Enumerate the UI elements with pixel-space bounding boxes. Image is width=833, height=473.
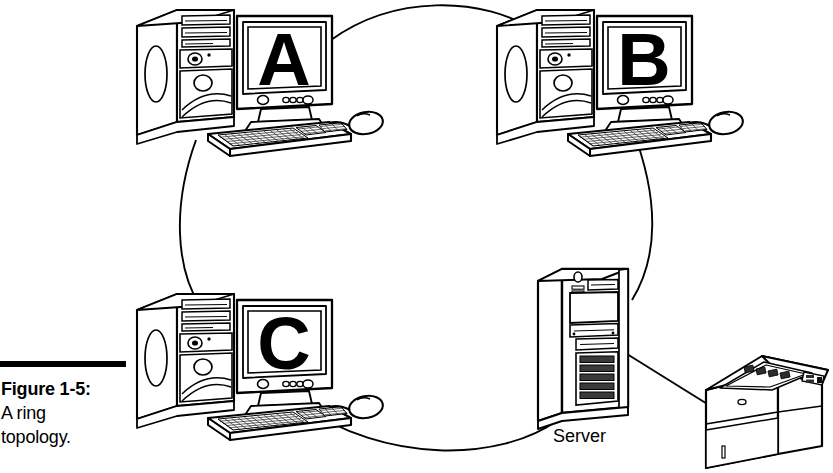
link-c-to-a — [180, 140, 200, 306]
computer-node-c: C — [137, 294, 385, 440]
figure-ring-topology: A B C Server Figure 1-5: A ring topology… — [0, 0, 833, 473]
caption-line-1: A ring — [1, 402, 161, 426]
screen-letter-c: C — [257, 302, 310, 385]
server-node — [538, 269, 628, 429]
computer-node-b: B — [497, 10, 745, 156]
laser-printer-icon — [706, 356, 828, 468]
server-label: Server — [553, 426, 606, 447]
link-b-to-server — [632, 128, 652, 300]
caption-line-2: topology. — [1, 426, 161, 450]
server-tower-icon — [538, 269, 628, 429]
printer-node — [706, 356, 828, 468]
caption-rule — [0, 361, 126, 367]
screen-letter-b: B — [617, 18, 670, 101]
caption-title: Figure 1-5: — [1, 378, 161, 402]
screen-letter-a: A — [257, 18, 310, 101]
figure-caption: Figure 1-5: A ring topology. — [1, 378, 161, 450]
computer-node-a: A — [137, 10, 385, 156]
